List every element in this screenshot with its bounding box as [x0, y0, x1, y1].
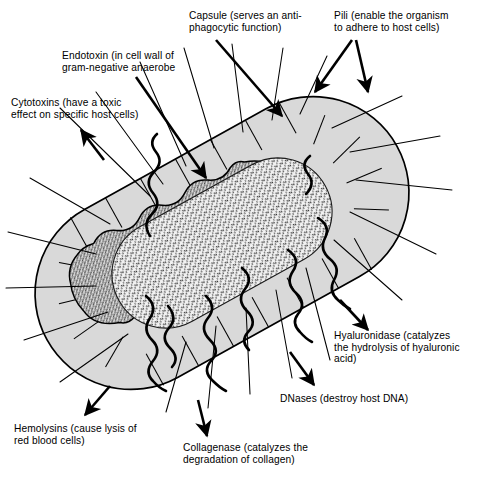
figure-root: Capsule (serves an anti- phagocytic func… [0, 0, 478, 486]
pilus [60, 108, 150, 196]
leader-hyaluronidase [340, 300, 368, 330]
pilus [30, 178, 110, 224]
leader-cytotoxins [81, 130, 104, 160]
leader-pili-a [315, 40, 352, 92]
label-endotoxin: Endotoxin (in cell wall of gram-negative… [62, 50, 175, 73]
leader-hemolysins [85, 386, 110, 415]
label-pili: Pili (enable the organism to adhere to h… [334, 10, 449, 33]
label-dnases: DNases (destroy host DNA) [280, 393, 408, 405]
pilus [184, 48, 214, 148]
label-capsule: Capsule (serves an anti- phagocytic func… [189, 10, 302, 33]
pilus [232, 44, 243, 132]
label-cytotoxins: Cytotoxins (have a toxic effect on speci… [11, 97, 138, 120]
label-hyaluronidase: Hyaluronidase (catalyzes the hydrolysis … [334, 330, 460, 365]
leader-pili-b [356, 40, 368, 92]
leader-collagenase [198, 400, 207, 436]
leader-dnases [290, 352, 314, 385]
label-collagenase: Collagenase (catalyzes the degradation o… [183, 442, 308, 465]
label-hemolysins: Hemolysins (cause lysis of red blood cel… [14, 423, 137, 446]
leader-capsule [216, 40, 282, 116]
